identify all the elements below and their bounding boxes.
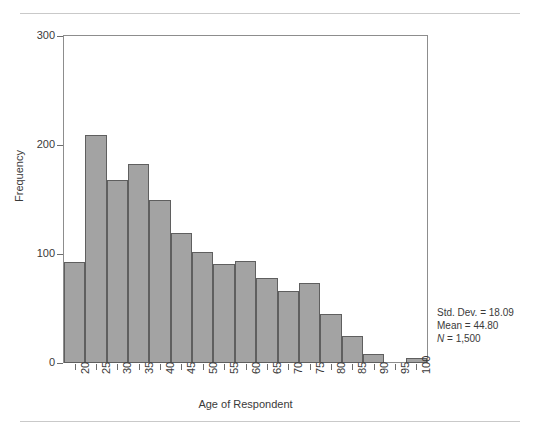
x-axis-tick-label: 40 (165, 362, 176, 374)
x-axis-tick-label: 45 (186, 362, 197, 374)
histogram-bar (213, 264, 234, 363)
y-axis-tick-label: 0 (19, 357, 55, 368)
x-axis-tick (160, 364, 161, 370)
x-axis-tick (224, 364, 225, 370)
x-axis-tick-label: 20 (80, 362, 91, 374)
x-axis-tick (96, 364, 97, 370)
figure-bottom-rule (20, 421, 520, 422)
x-axis-tick (203, 364, 204, 370)
x-axis-tick-label: 25 (101, 362, 112, 374)
x-axis-tick-label: 80 (336, 362, 347, 374)
x-axis-tick (395, 364, 396, 370)
x-axis-tick-label: 75 (315, 362, 326, 374)
x-axis-tick-label: 70 (293, 362, 304, 374)
histogram-bar (256, 278, 277, 363)
histogram-bar (149, 200, 170, 364)
x-axis-tick (352, 364, 353, 370)
histogram-bar (320, 314, 341, 363)
x-axis-tick-label: 65 (272, 362, 283, 374)
y-axis-tick (57, 363, 63, 364)
histogram-bar (278, 291, 299, 363)
x-axis-tick-label: 50 (208, 362, 219, 374)
x-axis-tick (75, 364, 76, 370)
x-axis-tick (374, 364, 375, 370)
x-axis-tick-label: 90 (379, 362, 390, 374)
n-value: = 1,500 (444, 333, 480, 344)
n-text: N = 1,500 (437, 332, 514, 345)
x-axis-tick-label: 60 (251, 362, 262, 374)
x-axis-tick (139, 364, 140, 370)
y-axis-tick (57, 254, 63, 255)
x-axis-tick-label: 30 (122, 362, 133, 374)
bars-layer (64, 36, 427, 363)
x-axis-tick-label: 35 (144, 362, 155, 374)
mean-text: Mean = 44.80 (437, 319, 514, 332)
stats-annotation: Std. Dev. = 18.09 Mean = 44.80 N = 1,500 (437, 306, 514, 345)
x-axis-tick (246, 364, 247, 370)
histogram-bar (171, 233, 192, 363)
y-axis-tick-label: 100 (19, 248, 55, 259)
y-axis-tick (57, 36, 63, 37)
y-axis-tick-label: 300 (19, 30, 55, 41)
x-axis-tick (310, 364, 311, 370)
histogram-bar (85, 135, 106, 363)
histogram-bar (235, 261, 256, 363)
histogram-bar (64, 262, 85, 363)
histogram-bar (342, 336, 363, 363)
histogram-bar (107, 180, 128, 363)
y-axis-tick (57, 145, 63, 146)
x-axis-tick (181, 364, 182, 370)
x-axis-tick-label: 55 (229, 362, 240, 374)
x-axis-tick (416, 364, 417, 370)
x-axis-tick (267, 364, 268, 370)
x-axis-tick-label: 85 (357, 362, 368, 374)
figure-top-rule (20, 13, 520, 14)
x-axis-tick-label: 95 (400, 362, 411, 374)
x-axis-tick (331, 364, 332, 370)
histogram-bar (299, 283, 320, 363)
x-axis-tick (117, 364, 118, 370)
std-dev-text: Std. Dev. = 18.09 (437, 306, 514, 319)
x-axis-tick (288, 364, 289, 370)
histogram-bar (192, 252, 213, 363)
x-axis-title: Age of Respondent (63, 398, 428, 410)
histogram-bar (128, 164, 149, 363)
y-axis-title: Frequency (13, 126, 25, 226)
x-axis-tick-label: 100 (421, 356, 432, 374)
